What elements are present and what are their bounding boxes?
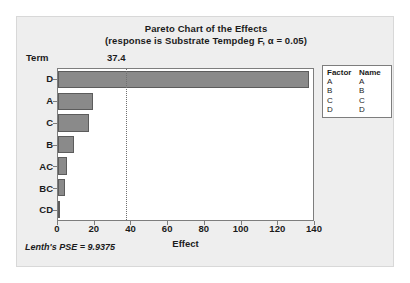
bar-b <box>58 136 74 153</box>
bar-row <box>58 112 313 134</box>
x-tick-mark <box>167 221 168 225</box>
pareto-chart-figure: Pareto Chart of the Effects (response is… <box>16 16 394 267</box>
legend-header-name: Name <box>359 68 387 77</box>
factor-legend: Factor Name AABBCCDD <box>322 65 392 118</box>
x-tick-mark <box>314 221 315 225</box>
legend-header-factor: Factor <box>327 68 359 77</box>
x-tick-mark <box>204 221 205 225</box>
bar-d <box>58 71 309 88</box>
y-tick-label-ac: AC <box>25 155 53 177</box>
legend-factor-value: D <box>327 105 359 114</box>
bar-row <box>58 91 313 113</box>
legend-row: BB <box>327 86 387 95</box>
chart-subtitle: (response is Substrate Tempdeg F, α = 0.… <box>17 35 395 47</box>
y-tick-mark <box>53 123 57 124</box>
legend-name-value: B <box>359 86 387 95</box>
legend-row: AA <box>327 77 387 86</box>
y-tick-mark <box>53 166 57 167</box>
bar-a <box>58 93 93 110</box>
x-axis-tick-labels: 020406080100120140 <box>57 223 314 237</box>
y-axis-title: Term <box>26 52 49 63</box>
bar-row <box>58 155 313 177</box>
legend-factor-value: A <box>327 77 359 86</box>
y-tick-label-b: B <box>25 134 53 156</box>
bar-c <box>58 114 89 131</box>
y-tick-mark <box>53 188 57 189</box>
x-tick-mark <box>277 221 278 225</box>
legend-row: DD <box>327 105 387 114</box>
y-tick-label-cd: CD <box>25 199 53 221</box>
bar-row <box>58 69 313 91</box>
y-tick-mark <box>53 101 57 102</box>
reference-line-label: 37.4 <box>107 52 126 63</box>
y-tick-mark <box>53 210 57 211</box>
legend-factor-value: C <box>327 96 359 105</box>
bar-ac <box>58 157 67 174</box>
lenths-pse-annotation: Lenth's PSE = 9.9375 <box>25 242 115 252</box>
legend-row: CC <box>327 96 387 105</box>
y-axis-tick-labels: DACBACBCCD <box>25 68 53 221</box>
y-tick-mark <box>53 79 57 80</box>
y-tick-mark <box>53 145 57 146</box>
bar-bc <box>58 179 65 196</box>
x-tick-mark <box>57 221 58 225</box>
legend-name-value: C <box>359 96 387 105</box>
bar-row <box>58 198 313 220</box>
bar-row <box>58 134 313 156</box>
bar-cd <box>58 201 60 218</box>
reference-line <box>126 69 127 220</box>
y-tick-label-a: A <box>25 90 53 112</box>
plot-area <box>57 68 314 221</box>
legend-name-value: A <box>359 77 387 86</box>
chart-title: Pareto Chart of the Effects <box>17 23 395 35</box>
legend-factor-value: B <box>327 86 359 95</box>
y-tick-label-c: C <box>25 112 53 134</box>
x-tick-mark <box>130 221 131 225</box>
bar-row <box>58 177 313 199</box>
bar-series <box>58 69 313 220</box>
y-tick-label-bc: BC <box>25 177 53 199</box>
chart-title-block: Pareto Chart of the Effects (response is… <box>17 23 395 47</box>
x-tick-mark <box>94 221 95 225</box>
y-tick-label-d: D <box>25 68 53 90</box>
legend-header-row: Factor Name <box>327 68 387 77</box>
x-tick-mark <box>241 221 242 225</box>
legend-name-value: D <box>359 105 387 114</box>
